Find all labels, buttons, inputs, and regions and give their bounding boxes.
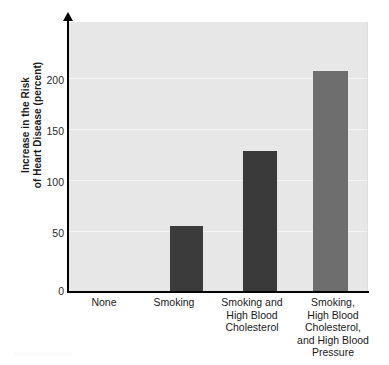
y-axis-line <box>67 18 69 293</box>
x-label-smoking-cholesterol-pressure-line-5: Pressure <box>277 346 389 359</box>
y-tick-label-0: 0 <box>4 286 64 296</box>
x-label-smoking-cholesterol-pressure-line-3: Cholesterol, <box>277 321 389 334</box>
x-label-smoking-cholesterol-pressure-line-2: High Blood <box>277 309 389 322</box>
bar-smoking-cholesterol-pressure <box>313 71 348 291</box>
x-axis-line <box>67 291 369 293</box>
x-label-smoking-cholesterol-pressure-line-4: and High Blood <box>277 334 389 347</box>
y-tick-label-50: 50 <box>4 228 64 238</box>
x-axis-category-labels: None Smoking Smoking and High Blood Chol… <box>69 296 369 364</box>
plot-area <box>69 22 368 291</box>
y-axis-arrow-icon <box>63 12 73 21</box>
bar-smoking <box>170 226 203 291</box>
y-tick-label-100: 100 <box>4 177 64 187</box>
x-label-smoking-cholesterol-pressure-line-1: Smoking, <box>277 296 389 309</box>
y-tick-label-200: 200 <box>4 75 64 85</box>
y-tick-label-150: 150 <box>4 126 64 136</box>
scan-artifact <box>14 352 72 356</box>
x-label-smoking-cholesterol-pressure: Smoking, High Blood Cholesterol, and Hig… <box>277 296 389 359</box>
bar-smoking-cholesterol <box>243 151 277 291</box>
bar-chart-figure: Increase in the Risk of Heart Disease (p… <box>0 0 389 365</box>
y-axis-tick-labels: 200 150 100 50 0 <box>0 0 64 365</box>
